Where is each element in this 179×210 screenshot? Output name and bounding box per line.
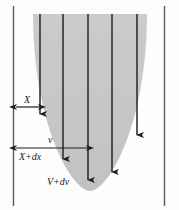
label-v-plus-dv: V+dv	[47, 177, 69, 187]
parabola-flow-figure: X v X+dx V+dv	[0, 0, 179, 210]
label-x: X	[24, 95, 30, 105]
label-v: v	[48, 135, 52, 145]
figure-canvas	[0, 0, 179, 210]
label-x-plus-dx: X+dx	[19, 152, 41, 162]
